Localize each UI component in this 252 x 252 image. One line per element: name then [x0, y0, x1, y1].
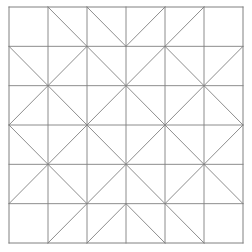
cell-diagonal-bltr — [126, 46, 165, 85]
cell-diagonal-tlbr — [48, 7, 87, 46]
cell-diagonal-bltr — [9, 164, 48, 203]
cell-diagonal-bltr — [48, 204, 87, 243]
cell-diagonal-tlbr — [165, 125, 204, 164]
cell-diagonal-bltr — [87, 204, 126, 243]
cell-diagonal-bltr — [165, 7, 204, 46]
cell-diagonal-bltr — [9, 86, 48, 125]
cell-diagonal-tlbr — [126, 204, 165, 243]
cell-diagonal-bltr — [165, 164, 204, 203]
cell-diagonal-bltr — [87, 164, 126, 203]
cell-diagonal-tlbr — [204, 164, 243, 203]
quilt-block-diagram: Geometric quilt block pattern — [0, 0, 252, 252]
cell-diagonal-tlbr — [165, 46, 204, 85]
cell-diagonal-tlbr — [204, 86, 243, 125]
cell-diagonal-tlbr — [87, 7, 126, 46]
cell-diagonal-tlbr — [126, 164, 165, 203]
cell-diagonal-bltr — [165, 86, 204, 125]
cell-diagonal-tlbr — [48, 86, 87, 125]
cell-diagonal-tlbr — [87, 125, 126, 164]
quilt-block-svg: Geometric quilt block pattern — [0, 0, 252, 252]
cell-diagonal-tlbr — [48, 164, 87, 203]
cell-diagonal-tlbr — [87, 46, 126, 85]
cell-diagonal-bltr — [204, 46, 243, 85]
cell-diagonal-bltr — [126, 7, 165, 46]
cell-diagonal-bltr — [48, 125, 87, 164]
cell-diagonal-bltr — [87, 86, 126, 125]
cell-diagonal-tlbr — [9, 46, 48, 85]
cell-diagonal-bltr — [126, 125, 165, 164]
cell-diagonal-tlbr — [126, 86, 165, 125]
cell-diagonal-bltr — [48, 46, 87, 85]
cell-diagonal-bltr — [204, 125, 243, 164]
cell-diagonal-tlbr — [165, 204, 204, 243]
cell-diagonal-tlbr — [9, 125, 48, 164]
